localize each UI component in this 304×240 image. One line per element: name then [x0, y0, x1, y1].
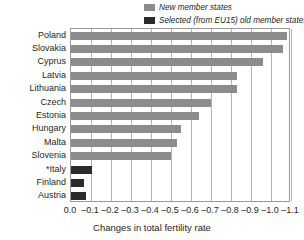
x-tick-label: –0.5 — [161, 204, 179, 216]
x-tick-label: –0.4 — [141, 204, 159, 216]
category-label-hungary: Hungary — [0, 123, 66, 133]
bar-finland — [71, 179, 84, 187]
legend-item-new-member-states: New member states — [144, 1, 302, 13]
bar-lithuania — [71, 85, 237, 93]
category-label-lithuania: Lithuania — [0, 83, 66, 93]
plot-area — [70, 28, 290, 202]
bar-row — [71, 96, 211, 109]
bar-czech — [71, 99, 211, 107]
gridline — [291, 29, 292, 201]
category-label-latvia: Latvia — [0, 70, 66, 80]
x-tick-label: –0.2 — [101, 204, 119, 216]
x-tick-label: –0.1 — [81, 204, 99, 216]
bar-austria — [71, 192, 86, 200]
x-tick-label: 0.0 — [64, 204, 77, 216]
bar-cyprus — [71, 58, 263, 66]
chart-legend: New member states Selected (from EU15) o… — [144, 1, 302, 27]
legend-item-old-member-states: Selected (from EU15) old member states — [144, 14, 302, 26]
bar-row — [71, 83, 237, 96]
bar-row — [71, 149, 171, 162]
bar-row — [71, 69, 237, 82]
bar-series-container — [71, 29, 289, 201]
category-label-poland: Poland — [0, 30, 66, 40]
x-tick-label: –1.0 — [261, 204, 279, 216]
x-tick-label: –0.8 — [221, 204, 239, 216]
category-label-slovenia: Slovenia — [0, 150, 66, 160]
x-tick-label: –0.7 — [201, 204, 219, 216]
legend-swatch-new-member-states — [144, 4, 155, 11]
bar-row — [71, 176, 84, 189]
category-label-finland: Finland — [0, 177, 66, 187]
x-tick-label: –0.9 — [241, 204, 259, 216]
x-tick-label: –0.6 — [181, 204, 199, 216]
y-axis-category-labels: PolandSlovakiaCyprusLatviaLithuaniaCzech… — [0, 28, 66, 202]
x-axis-title: Changes in total fertility rate — [0, 222, 304, 234]
bar-italy — [71, 166, 92, 174]
x-axis-tick-labels: 0.0–0.1–0.2–0.3–0.4–0.5–0.6–0.7–0.8–0.9–… — [0, 204, 304, 218]
bar-malta — [71, 139, 177, 147]
category-label-estonia: Estonia — [0, 110, 66, 120]
bar-row — [71, 123, 181, 136]
category-label-malta: Malta — [0, 137, 66, 147]
bar-row — [71, 109, 199, 122]
legend-label-old-member-states: Selected (from EU15) old member states — [159, 16, 304, 25]
bar-row — [71, 29, 287, 42]
bar-hungary — [71, 125, 181, 133]
bar-slovenia — [71, 152, 171, 160]
category-label-cyprus: Cyprus — [0, 56, 66, 66]
bar-poland — [71, 32, 287, 40]
bar-row — [71, 190, 86, 203]
bar-row — [71, 136, 177, 149]
bar-row — [71, 42, 283, 55]
x-tick-label: –0.3 — [121, 204, 139, 216]
bar-latvia — [71, 72, 237, 80]
x-tick-label: –1.1 — [281, 204, 299, 216]
legend-label-new-member-states: New member states — [159, 3, 232, 12]
bar-row — [71, 163, 92, 176]
category-label-austria: Austria — [0, 190, 66, 200]
category-label-czech: Czech — [0, 97, 66, 107]
category-label-italy: *Italy — [0, 164, 66, 174]
category-label-slovakia: Slovakia — [0, 43, 66, 53]
legend-swatch-old-member-states — [144, 17, 155, 24]
bar-estonia — [71, 112, 199, 120]
fertility-change-bar-chart: New member states Selected (from EU15) o… — [0, 0, 304, 240]
bar-row — [71, 56, 263, 69]
bar-slovakia — [71, 45, 283, 53]
